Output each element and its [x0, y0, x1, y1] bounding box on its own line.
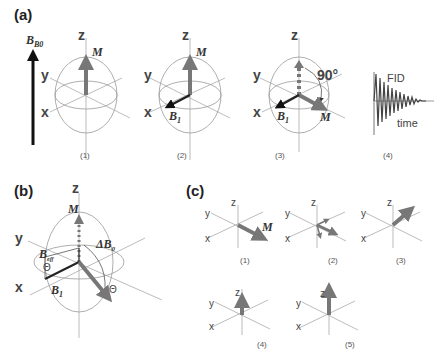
m-vector-label: M	[261, 220, 273, 234]
panel-c-step-2: z y x (2)	[285, 197, 346, 265]
y-axis-label: y	[253, 67, 261, 83]
y-axis-label: y	[205, 208, 210, 219]
caption: (3)	[396, 256, 406, 265]
panel-c-step-4: z y x (4)	[209, 287, 270, 349]
panel-c-step-5: z y x (5)	[296, 287, 358, 349]
panel-a-step-1: z y x M (1)	[41, 27, 130, 160]
y-axis-label: y	[361, 208, 366, 219]
m-vector-label: M	[91, 45, 103, 59]
caption: (4)	[383, 151, 393, 160]
m-vector-label: M	[67, 202, 79, 216]
panel-c: (c) z y x M (1) z y x (2)	[186, 182, 422, 349]
caption: (1)	[240, 256, 250, 265]
x-axis-label: x	[296, 321, 301, 332]
x-axis-label: x	[144, 104, 152, 120]
panel-a-step-3: z y x 90° B1 M (3)	[253, 27, 345, 160]
delta-b0-label: ΔB0	[95, 237, 116, 253]
z-axis-label: z	[320, 288, 325, 299]
fid-label: FID	[387, 72, 405, 84]
x-axis-label: x	[205, 233, 210, 244]
b-eff-label: Beff	[38, 247, 55, 262]
y-axis-label: y	[144, 67, 152, 83]
b0-field-arrow: BB0	[25, 33, 43, 145]
panel-a-step-4-fid: FID time (4)	[374, 72, 434, 160]
b1-vector-label: B1	[168, 109, 181, 125]
x-axis-label: x	[209, 321, 214, 332]
z-axis-label: z	[387, 197, 392, 208]
time-label: time	[397, 117, 418, 129]
x-axis-label: x	[285, 233, 290, 244]
panel-b-label: (b)	[14, 182, 33, 199]
y-axis-label: y	[41, 67, 49, 83]
theta-label-1: Θ	[43, 262, 51, 273]
caption: (4)	[257, 340, 267, 349]
b1-vector-label: B1	[276, 109, 289, 125]
panel-a-step-2: z y x M B1 (2)	[144, 27, 230, 160]
y-axis-label: y	[285, 208, 290, 219]
b0-label: BB0	[25, 33, 43, 49]
x-axis-label: x	[15, 279, 23, 295]
b1-vector-label: B1	[50, 283, 63, 299]
z-axis-label: z	[231, 197, 236, 208]
z-axis-label: z	[78, 27, 85, 43]
caption: (3)	[275, 151, 285, 160]
panel-c-step-3: z y x (3)	[361, 197, 422, 265]
panel-c-step-1: z y x M (1)	[205, 197, 273, 265]
z-axis-label: z	[182, 27, 189, 43]
panel-a: (a) BB0 z y x M (1)	[14, 6, 434, 160]
theta-label-2: Θ	[109, 284, 117, 295]
x-axis-label: x	[253, 104, 261, 120]
y-axis-label: y	[209, 298, 214, 309]
x-axis-label: x	[41, 104, 49, 120]
angle-label: 90°	[317, 67, 338, 83]
z-axis-label: z	[291, 27, 298, 43]
caption: (2)	[177, 151, 187, 160]
caption: (5)	[345, 340, 355, 349]
caption: (1)	[80, 151, 90, 160]
x-axis-label: x	[361, 233, 366, 244]
panel-c-label: (c)	[186, 182, 204, 199]
z-axis-label: z	[72, 180, 79, 196]
nmr-diagram: (a) BB0 z y x M (1)	[0, 0, 443, 361]
y-axis-label: y	[296, 298, 301, 309]
z-axis-label: z	[235, 287, 240, 298]
m-vector-label: M	[319, 110, 331, 124]
panel-b: (b) z y x M ΔB0 Beff Θ B1 Θ	[14, 180, 162, 338]
m-vector-label: M	[195, 45, 207, 59]
z-axis-label: z	[311, 197, 316, 208]
y-axis-label: y	[15, 230, 23, 246]
panel-a-label: (a)	[14, 6, 32, 23]
caption: (2)	[328, 256, 338, 265]
